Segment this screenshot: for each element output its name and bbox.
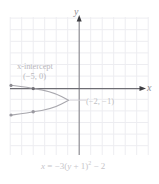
equation-rhs-mid: + 1) <box>71 161 88 171</box>
parabola-graph-figure: y x x-intercept (−5, 0) (−2, −1) x = −3(… <box>0 0 159 184</box>
equation-rhs-prefix: −3( <box>55 161 68 171</box>
point-left-upper <box>9 84 12 87</box>
graph-canvas <box>0 0 159 184</box>
y-axis-label: y <box>74 6 78 17</box>
point-x-intercept <box>32 87 35 90</box>
equation-rhs-suffix: − 2 <box>91 161 105 171</box>
point-left-lower <box>9 113 12 116</box>
x-intercept-coordinates: (−5, 0) <box>23 71 46 81</box>
vertex-coordinates-label: (−2, −1) <box>86 96 114 106</box>
point-lower-branch <box>32 110 35 113</box>
equation-label: x = −3(y + 1)2 − 2 <box>41 160 105 171</box>
x-axis-arrow <box>140 86 147 91</box>
x-axis-label: x <box>147 82 151 93</box>
x-intercept-caption: x-intercept <box>17 61 53 71</box>
